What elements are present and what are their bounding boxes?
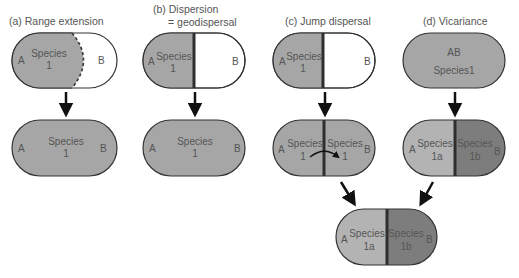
- species-label-right: Species: [327, 138, 363, 149]
- panel-b-before-range: A B Species 1: [143, 33, 245, 88]
- panel-c-before-range: A B Species 1: [273, 33, 375, 88]
- species-number-left: 1: [300, 151, 306, 162]
- species-number: 1: [170, 63, 176, 74]
- area-label-a: A: [18, 55, 25, 66]
- area-label-ab: AB: [447, 47, 461, 58]
- area-label-b: B: [426, 234, 433, 245]
- area-label-a: A: [279, 56, 286, 67]
- area-label-a: A: [278, 144, 285, 155]
- species-number-left: 1a: [363, 241, 375, 252]
- species-label: Species: [48, 136, 84, 147]
- species-number: 1: [46, 60, 52, 71]
- area-label-a: A: [341, 234, 348, 245]
- merged-result-range: A B Species 1a Species 1b: [336, 209, 437, 265]
- species-number-right: 1b: [400, 241, 412, 252]
- area-label-b: B: [232, 56, 239, 67]
- species-label: Species: [177, 136, 213, 147]
- species-number-right: 1: [342, 151, 348, 162]
- area-label-b: B: [234, 143, 241, 154]
- species-label-right: Species: [457, 138, 493, 149]
- area-label-b: B: [364, 144, 371, 155]
- converge-arrow-left-icon: [341, 182, 352, 200]
- area-label-a: A: [409, 144, 416, 155]
- species-number: 1: [63, 148, 69, 159]
- species-label-left: Species: [349, 228, 385, 239]
- area-label-a: A: [148, 56, 155, 67]
- area-label-b: B: [100, 143, 107, 154]
- species-number: 1: [192, 148, 198, 159]
- species-label: Species1: [433, 65, 475, 76]
- panel-d-before-range: AB Species1: [403, 33, 505, 88]
- panel-a-after-range: A B Species 1: [12, 120, 117, 176]
- area-label-b: B: [98, 55, 105, 66]
- panel-a-before-range: A B Species 1: [12, 33, 117, 88]
- area-label-a: A: [149, 143, 156, 154]
- species-label: Species: [31, 48, 67, 59]
- species-label-left: Species: [287, 138, 323, 149]
- species-number-left: 1a: [431, 151, 443, 162]
- panel-b-after-range: A B Species 1: [143, 120, 245, 176]
- species-label: Species: [156, 51, 192, 62]
- area-label-b: B: [364, 56, 371, 67]
- species-number-right: 1b: [469, 151, 481, 162]
- species-number: 1: [300, 63, 306, 74]
- species-label-right: Species: [388, 228, 424, 239]
- area-label-b: B: [494, 146, 501, 157]
- panel-d-after-range: A B Species 1a Species 1b: [403, 120, 505, 176]
- species-label: Species: [286, 51, 322, 62]
- panel-c-after-range: A B Species 1 Species 1: [273, 120, 375, 176]
- converge-arrow-right-icon: [423, 182, 433, 200]
- area-label-a: A: [18, 143, 25, 154]
- species-label-left: Species: [417, 138, 453, 149]
